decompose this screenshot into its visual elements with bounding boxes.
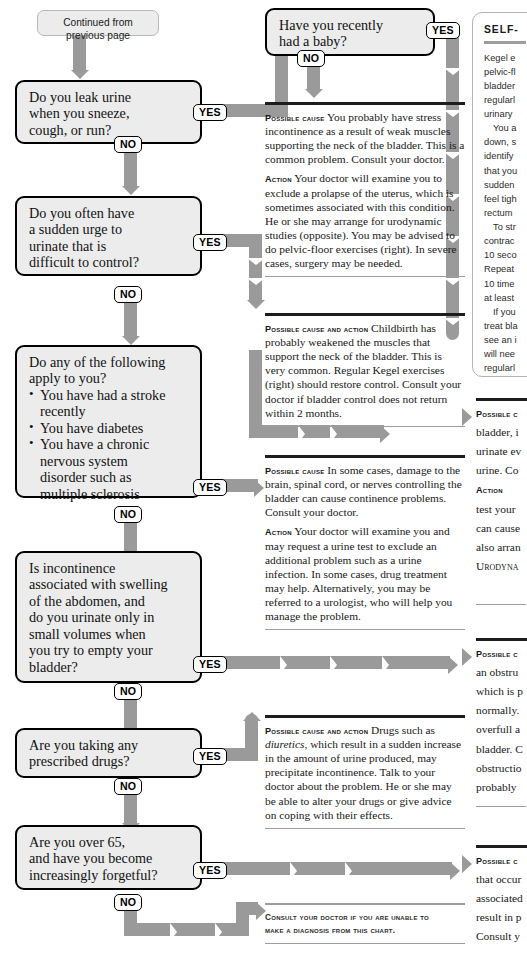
q4-line4: do you urinate only in <box>29 609 190 625</box>
question-box-following-apply[interactable]: Do any of the following apply to you? Yo… <box>15 345 202 498</box>
q3-yes-tag[interactable]: YES <box>193 479 227 496</box>
flowchart-page: Continued from previous page Do you leak… <box>0 0 527 953</box>
rcol1-rule <box>476 398 527 401</box>
q5-no-tag[interactable]: NO <box>114 778 142 795</box>
q3-b3-l3: disorder such as <box>40 469 131 485</box>
q4-line3: of the abdomen, and <box>29 593 190 609</box>
q3-bullet-stroke: You have had a stroke recently <box>29 387 190 420</box>
q4-yes-tag[interactable]: YES <box>193 656 227 673</box>
q3-bullet-diabetes: You have diabetes <box>29 420 190 436</box>
consult-rule-bottom <box>265 943 465 944</box>
q5-line1: Are you taking any <box>29 737 190 753</box>
self-help-line-9: sudden <box>484 178 527 192</box>
connector-q6-no-h <box>124 923 249 936</box>
rcol2-label: Possible c <box>476 646 527 660</box>
arrow-q2-yes <box>247 300 265 309</box>
q1-yes-tag[interactable]: YES <box>193 104 227 121</box>
consult-line2: make a diagnosis from this chart. <box>265 924 465 937</box>
rcol1-a2: also arran <box>476 540 527 554</box>
self-help-line-15: Repeat <box>484 262 527 276</box>
answer1-rule-bottom <box>265 276 465 277</box>
q6-yes-tag[interactable]: YES <box>193 862 227 879</box>
self-help-line-1: pelvic-fl <box>484 65 527 79</box>
self-help-line-5: You a <box>484 121 527 135</box>
q3-no-tag[interactable]: NO <box>114 506 142 523</box>
q4-no-tag[interactable]: NO <box>114 683 142 700</box>
consult-rule-top <box>265 903 465 905</box>
chevron-q6-2 <box>345 862 352 880</box>
arrow-q2-no <box>122 336 140 345</box>
rcol1-a0: test your <box>476 502 527 516</box>
question-box-recent-baby[interactable]: Have you recently had a baby? <box>265 8 435 56</box>
chevron-q6-1 <box>290 862 297 880</box>
q1-line2: when you sneeze, <box>29 105 190 121</box>
q2-no-tag[interactable]: NO <box>114 286 142 303</box>
chevron-q4-1 <box>280 656 287 674</box>
q2-line1: Do you often have <box>29 205 190 221</box>
question-box-leak-urine[interactable]: Do you leak urine when you sneeze, cough… <box>15 80 202 144</box>
answer-obstruction: Possible c an obstru which is p normally… <box>476 638 527 793</box>
answer-stress-incontinence: Possible cause You probably have stress … <box>265 102 465 277</box>
rcol3-l0: that occur <box>476 872 527 886</box>
answer3-cause: Possible cause In some cases, damage to … <box>265 463 465 519</box>
start-box-line2: previous page <box>38 29 158 42</box>
answer-elderly: Possible c that occur associated result … <box>476 845 527 950</box>
q3-bullet-nervous: You have a chronic nervous system disord… <box>29 436 190 502</box>
rcol1-l1: urinate ev <box>476 444 527 458</box>
rcol1-a3: Urodyna <box>476 559 527 573</box>
q3-b3-l1: You have a chronic <box>40 436 149 452</box>
q4-line5: small volumes when <box>29 626 190 642</box>
arrow-rcol-3 <box>462 855 472 873</box>
arrow-rcol-2 <box>462 648 472 666</box>
q1-no-tag[interactable]: NO <box>114 136 142 153</box>
answer1-rule <box>265 102 465 105</box>
question-box-over-65-forgetful[interactable]: Are you over 65, and have you become inc… <box>15 825 202 890</box>
arrow-start-to-q1 <box>71 70 89 79</box>
qbaby-yes-tag[interactable]: YES <box>426 22 460 39</box>
q2-line3: urinate that is <box>29 238 190 254</box>
arrow-q4-yes <box>448 656 458 674</box>
q6-line3: increasingly forgetful? <box>29 867 190 883</box>
q2-yes-tag[interactable]: YES <box>193 234 227 251</box>
self-help-line-8: that you <box>484 164 527 178</box>
q1-line1: Do you leak urine <box>29 89 190 105</box>
arrow-q3-yes <box>254 479 264 497</box>
question-box-sudden-urge[interactable]: Do you often have a sudden urge to urina… <box>15 196 202 276</box>
chevron-childbirth-2 <box>330 425 337 443</box>
question-box-swelling-abdomen[interactable]: Is incontinence associated with swelling… <box>15 551 202 683</box>
answer3-rule-bottom <box>265 629 465 630</box>
answer4-rule-bottom <box>265 828 465 829</box>
self-help-line-2: bladder <box>484 79 527 93</box>
q5-yes-tag[interactable]: YES <box>193 748 227 765</box>
rcol2-l1: which is p <box>476 684 527 698</box>
answer2-cause-label: Possible cause and action <box>265 324 368 334</box>
question-box-prescribed-drugs[interactable]: Are you taking any prescribed drugs? <box>15 728 202 778</box>
answer4-cause-label: Possible cause and action <box>265 726 368 736</box>
answer-urge-incontinence: Possible c bladder, i urinate ev urine. … <box>476 398 527 573</box>
answer-childbirth: Possible cause and action Childbirth has… <box>265 313 465 427</box>
rcol1-label: Possible c <box>476 406 527 420</box>
self-help-line-7: identify <box>484 149 527 163</box>
qbaby-line1: Have you recently <box>279 17 423 33</box>
chevron-q6no-1 <box>170 923 177 941</box>
start-box-line1: Continued from <box>38 16 158 29</box>
chevron-q4-3 <box>382 656 389 674</box>
answer3-cause-label: Possible cause <box>265 466 324 476</box>
chevron-rail-6 <box>444 278 462 285</box>
q3-line2: apply to you? <box>29 370 190 386</box>
q6-no-tag[interactable]: NO <box>114 894 142 911</box>
answer4-cause: Possible cause and action Drugs such as … <box>265 723 465 822</box>
qbaby-no-tag[interactable]: NO <box>297 50 325 67</box>
qbaby-line2: had a baby? <box>279 33 423 49</box>
self-help-line-6: down, s <box>484 135 527 149</box>
connector-q5-yes-v <box>245 714 258 761</box>
answer-nerve-damage: Possible cause In some cases, damage to … <box>265 455 465 630</box>
q4-line2: associated with swelling <box>29 576 190 592</box>
q3-b1-l2: recently <box>40 403 86 419</box>
answer2-cause: Possible cause and action Childbirth has… <box>265 321 465 420</box>
self-help-panel: SELF- Kegel e pelvic-fl bladder regularl… <box>472 12 527 377</box>
rcol2-l3: overfull a <box>476 722 527 736</box>
rcol2-rule <box>476 638 527 641</box>
self-help-line-11: rectum <box>484 206 527 220</box>
q4-line1: Is incontinence <box>29 560 190 576</box>
